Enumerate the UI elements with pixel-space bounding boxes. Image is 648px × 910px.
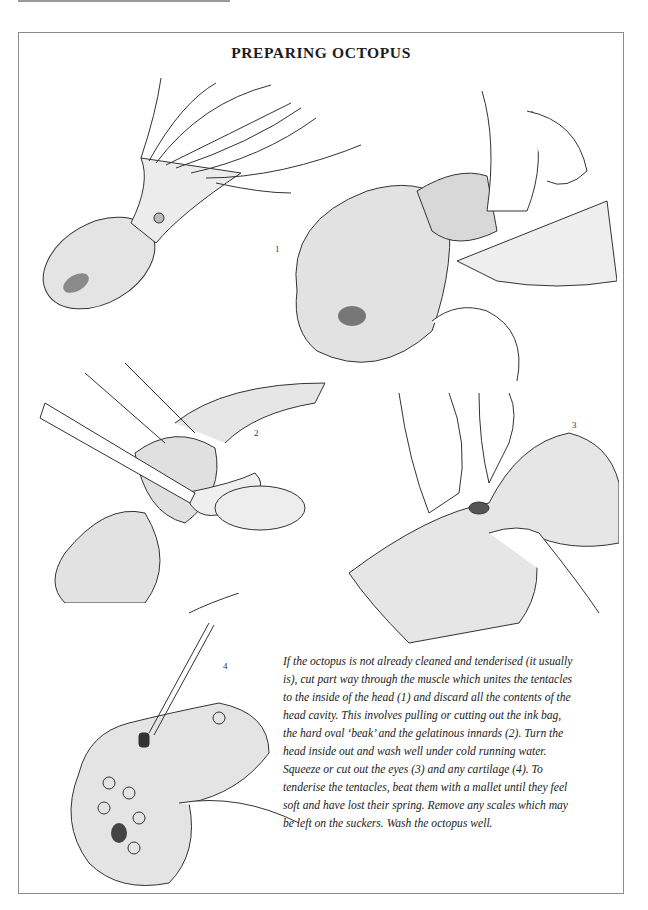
figure-label-4: 4 bbox=[223, 661, 228, 671]
text-line: be left on the suckers. Wash the octopus… bbox=[283, 815, 628, 833]
text-line: head inside out and wash well under cold… bbox=[283, 743, 628, 761]
page-title: PREPARING OCTOPUS bbox=[19, 44, 623, 62]
illustration-step-4 bbox=[39, 593, 299, 893]
illustration-step-2 bbox=[25, 363, 335, 603]
text-line: Squeeze or cut out the eyes (3) and any … bbox=[283, 761, 628, 779]
page-frame: PREPARING OCTOPUS 1 bbox=[18, 32, 624, 894]
text-line: head cavity. This involves pulling or cu… bbox=[283, 707, 628, 725]
text-line: is), cut part way through the muscle whi… bbox=[283, 671, 628, 689]
text-line: soft and have lost their spring. Remove … bbox=[283, 797, 628, 815]
figure-label-3: 3 bbox=[572, 420, 577, 430]
figure-label-1: 1 bbox=[275, 244, 280, 254]
text-line: the hard oval ‘beak’ and the gelatinous … bbox=[283, 725, 628, 743]
illustration-step-3 bbox=[349, 383, 619, 653]
illustration-step-1 bbox=[257, 81, 617, 381]
instructions-paragraph: If the octopus is not already cleaned an… bbox=[283, 653, 628, 833]
text-line: to the inside of the head (1) and discar… bbox=[283, 689, 628, 707]
figure-label-2: 2 bbox=[254, 428, 259, 438]
text-line: If the octopus is not already cleaned an… bbox=[283, 653, 628, 671]
text-line: tenderise the tentacles, beat them with … bbox=[283, 779, 628, 797]
scan-edge-strip bbox=[18, 0, 230, 2]
